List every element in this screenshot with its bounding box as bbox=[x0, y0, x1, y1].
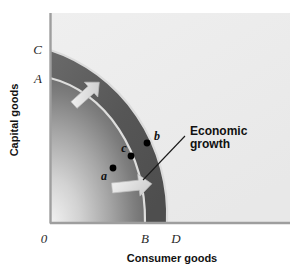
point-label-b: b bbox=[154, 129, 160, 143]
point-label-a: a bbox=[101, 169, 107, 183]
data-point-c bbox=[128, 153, 135, 160]
point-label-c: c bbox=[121, 141, 127, 155]
y-tick-label-C: C bbox=[33, 42, 42, 57]
x-tick-label-B: B bbox=[141, 231, 149, 246]
data-point-a bbox=[110, 165, 117, 172]
data-point-b bbox=[144, 140, 151, 147]
economic-growth-label-line2: growth bbox=[190, 137, 230, 151]
x-axis-title: Consumer goods bbox=[127, 252, 217, 264]
economic-growth-ppf-figure: a b c C A 0 B D Consumer goods Capital g… bbox=[0, 0, 294, 276]
origin-label: 0 bbox=[41, 231, 48, 246]
economic-growth-label-line1: Economic bbox=[190, 124, 248, 138]
y-axis-title: Capital goods bbox=[8, 84, 20, 157]
y-tick-label-A: A bbox=[33, 71, 42, 86]
ppf-chart-svg: a b c C A 0 B D Consumer goods Capital g… bbox=[0, 0, 294, 276]
x-tick-label-D: D bbox=[170, 231, 181, 246]
